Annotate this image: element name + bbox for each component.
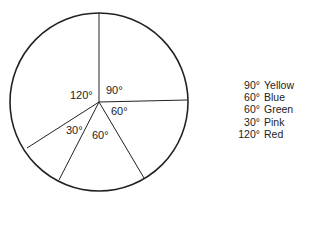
legend: 90° Yellow 60° Blue 60° Green 30° Pink 1… bbox=[232, 79, 294, 140]
legend-item-yellow: 90° Yellow bbox=[232, 79, 294, 91]
legend-item-blue: 60° Blue bbox=[232, 91, 294, 103]
slice-label-yellow: 90° bbox=[106, 84, 123, 96]
slice-label-red: 120° bbox=[70, 89, 93, 101]
slice-label-green: 60° bbox=[92, 129, 109, 141]
slice-divider bbox=[27, 102, 99, 148]
legend-item-red: 120° Red bbox=[232, 128, 294, 140]
legend-item-pink: 30° Pink bbox=[232, 116, 294, 128]
slice-divider bbox=[59, 102, 99, 180]
slice-label-blue: 60° bbox=[111, 105, 128, 117]
legend-item-green: 60° Green bbox=[232, 103, 294, 115]
slice-label-pink: 30° bbox=[66, 124, 83, 136]
slice-divider bbox=[99, 100, 187, 102]
